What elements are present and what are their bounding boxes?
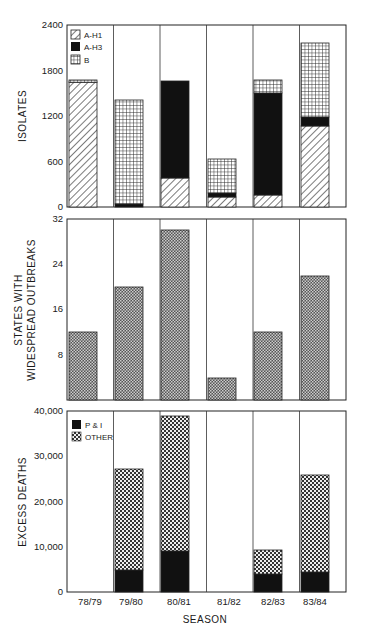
y-ticks: 40,000 30,000 20,000 10,000 0: [34, 405, 63, 597]
legend-isolates: A-H1 A-H3 B: [71, 30, 103, 65]
tick-label: 24: [52, 258, 63, 269]
y-axis-title: WIDESPREAD OUTBREAKS: [26, 239, 37, 381]
bar-p-and-i: [254, 574, 282, 592]
bar-p-and-i: [301, 572, 329, 592]
bar-a-h3: [161, 81, 189, 178]
season-label: 79/80: [119, 596, 143, 607]
bar-states: [69, 332, 97, 400]
bar-states: [301, 276, 329, 400]
bar-b: [69, 80, 97, 83]
season-label: 82/83: [261, 596, 285, 607]
legend-label: B: [84, 56, 89, 65]
x-tick-labels: 78/79 79/80 80/81 81/82 82/83 83/84: [78, 596, 327, 607]
bar-other: [254, 550, 282, 574]
states-panel: 32 24 16 8 STATES WITH WIDESPREAD OUTBRE…: [13, 213, 346, 400]
tick-label: 20,000: [34, 496, 63, 507]
legend-label: A-H1: [84, 31, 103, 40]
bar-p-and-i: [161, 551, 189, 592]
bar-states: [115, 287, 143, 400]
bar-b: [115, 100, 143, 204]
legend-swatch-a-h1: [71, 30, 80, 39]
legend-label: A-H3: [84, 43, 103, 52]
legend-swatch-b: [71, 55, 80, 64]
bar-other: [161, 416, 189, 551]
bar-other: [115, 469, 143, 570]
states-bars: [69, 230, 329, 400]
y-ticks: 2400 1800 1200 600 0: [42, 19, 63, 212]
tick-label: 1200: [42, 110, 63, 121]
bar-b: [301, 43, 329, 117]
bar-a-h3: [254, 93, 282, 195]
legend-swatch-a-h3: [71, 42, 80, 51]
bar-states: [254, 332, 282, 400]
tick-label: 10,000: [34, 541, 63, 552]
tick-label: 32: [52, 213, 63, 224]
bar-states: [208, 378, 236, 400]
deaths-bars: [115, 416, 329, 592]
season-label: 83/84: [303, 596, 327, 607]
season-label: 78/79: [78, 596, 102, 607]
tick-label: 1800: [42, 65, 63, 76]
bar-a-h1: [301, 126, 329, 207]
bar-a-h3: [208, 193, 236, 197]
tick-label: 16: [52, 303, 63, 314]
bar-a-h3: [301, 117, 329, 126]
tick-label: 600: [47, 156, 63, 167]
tick-label: 40,000: [34, 405, 63, 416]
tick-label: 2400: [42, 19, 63, 30]
tick-label: 30,000: [34, 450, 63, 461]
tick-label: 0: [58, 586, 63, 597]
y-axis-title: STATES WITH: [13, 274, 24, 345]
legend-swatch-other: [72, 432, 81, 441]
bar-b: [208, 159, 236, 193]
tick-label: 0: [58, 201, 63, 212]
y-axis-title: ISOLATES: [17, 90, 28, 142]
bar-b: [254, 80, 282, 93]
season-label: 80/81: [167, 596, 191, 607]
bar-a-h3: [115, 204, 143, 207]
bar-a-h1: [69, 82, 97, 207]
legend-deaths: P & I OTHER: [72, 420, 113, 442]
bar-a-h1: [254, 195, 282, 207]
season-label: 81/82: [217, 596, 241, 607]
y-ticks: 32 24 16 8: [52, 213, 63, 360]
isolates-panel: 2400 1800 1200 600 0 ISOLATES: [17, 19, 346, 212]
bar-a-h1: [161, 178, 189, 207]
legend-label: OTHER: [85, 433, 113, 442]
bar-states: [161, 230, 189, 400]
bar-a-h1: [208, 197, 236, 207]
bar-p-and-i: [115, 570, 143, 592]
chart-figure: 2400 1800 1200 600 0 ISOLATES: [0, 0, 366, 638]
legend-swatch-p-and-i: [72, 420, 81, 429]
legend-label: P & I: [85, 421, 102, 430]
y-axis-title: EXCESS DEATHS: [17, 457, 28, 547]
x-axis-title: SEASON: [183, 614, 228, 625]
tick-label: 8: [58, 349, 63, 360]
bar-other: [301, 475, 329, 572]
deaths-panel: 40,000 30,000 20,000 10,000 0 EXCESS DEA…: [17, 405, 346, 625]
isolates-bars: [69, 43, 329, 207]
